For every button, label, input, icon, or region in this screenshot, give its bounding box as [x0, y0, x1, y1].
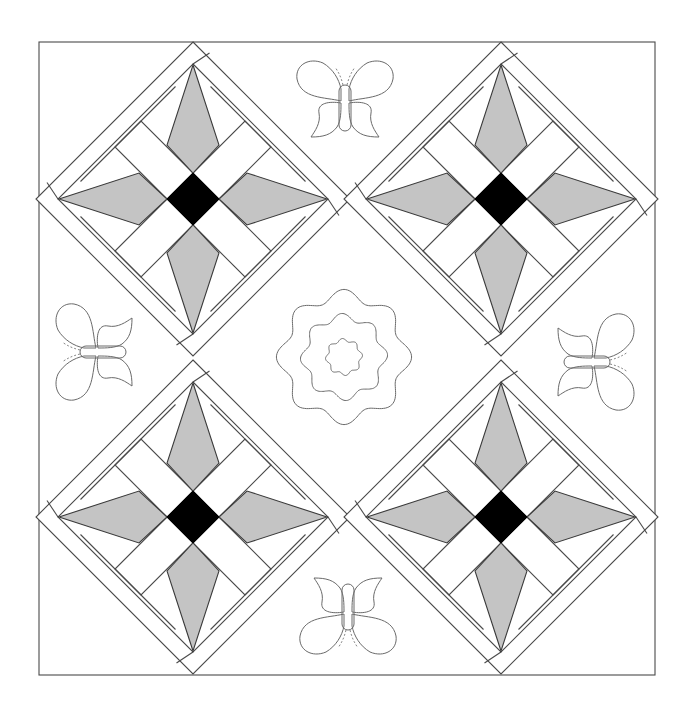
butterfly-top [297, 61, 393, 137]
wing-upper-left [594, 314, 634, 358]
star-block-bottom-right [344, 360, 658, 674]
star-block-bottom-left [36, 360, 350, 674]
wing-lower-left [97, 356, 132, 386]
wing-upper-right [594, 366, 634, 410]
wing-lower-right [314, 578, 344, 613]
wing-upper-right [300, 614, 344, 654]
wing-upper-left [56, 356, 96, 400]
wing-upper-right [349, 61, 393, 101]
butterfly-bottom [300, 578, 396, 654]
flower-ring [276, 289, 411, 424]
star-block-top-left [36, 42, 350, 356]
wing-lower-left [558, 328, 593, 358]
center-flower-quilting-motif [276, 289, 411, 424]
wing-upper-right [56, 304, 96, 348]
wing-lower-right [97, 318, 132, 348]
wing-lower-left [311, 102, 341, 137]
flower-ring [301, 314, 388, 401]
wing-lower-left [352, 578, 382, 613]
butterfly-left [56, 304, 132, 400]
star-blocks [36, 42, 658, 674]
wing-lower-right [349, 102, 379, 137]
wing-upper-left [297, 61, 341, 101]
butterfly-right [558, 314, 634, 410]
wing-upper-left [352, 614, 396, 654]
wing-lower-right [558, 366, 593, 396]
flower-ring [326, 339, 363, 376]
quilt-diagram [0, 0, 691, 724]
